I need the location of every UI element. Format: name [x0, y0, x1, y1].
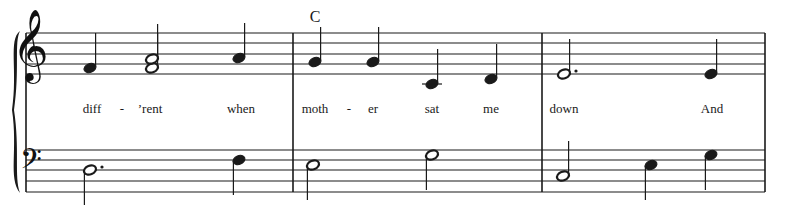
note-A4: [145, 24, 160, 65]
lyric-syllable: diff: [83, 101, 102, 117]
lyric-syllable: when: [227, 101, 255, 117]
lyric-syllable: me: [483, 101, 499, 117]
note-G3: [425, 149, 440, 190]
lyric-syllable: er: [368, 101, 378, 117]
note-C3: [556, 141, 571, 182]
note-G3: [704, 149, 719, 190]
note-E3: [644, 159, 659, 200]
treble-clef-icon: 𝄞: [12, 14, 49, 76]
note-D4: [484, 44, 499, 85]
lyric-syllable: moth: [302, 101, 329, 117]
bass-clef-icon: 𝄢: [20, 145, 42, 179]
augmentation-dot: [100, 165, 103, 168]
note-F3: [232, 154, 247, 195]
lyric-syllable: -: [120, 101, 124, 117]
lyric-syllable: ’rent: [138, 101, 163, 117]
lyric-syllable: -: [347, 101, 351, 117]
note-A4: [232, 23, 247, 64]
lyric-syllable: down: [550, 101, 579, 117]
notes: [83, 23, 719, 205]
lyric-syllable: And: [701, 101, 723, 117]
lyric-syllable: sat: [425, 101, 439, 117]
note-E3: [306, 159, 321, 200]
sheet-music-score: [0, 0, 786, 211]
note-E4: [704, 39, 719, 80]
note-C4: [422, 49, 442, 90]
chord-symbol: C: [310, 8, 321, 26]
augmentation-dot: [574, 69, 577, 72]
